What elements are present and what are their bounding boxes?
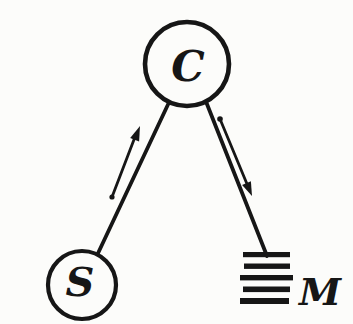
edge-s-to-c xyxy=(92,96,172,266)
arrow-up-shaft xyxy=(112,137,135,197)
hatched-block-icon xyxy=(240,252,293,304)
arrow-up-icon xyxy=(109,126,140,200)
hatch-bar xyxy=(240,275,293,280)
node-c: C xyxy=(145,22,229,106)
edge-c-to-m xyxy=(203,94,267,256)
node-m-label: M xyxy=(297,269,342,314)
node-c-label: C xyxy=(171,42,205,91)
diagram-svg: C S M xyxy=(0,0,353,324)
node-m: M xyxy=(240,252,342,314)
arrow-up-head xyxy=(130,126,140,142)
hatch-bar xyxy=(243,287,290,293)
hatch-bar xyxy=(244,264,290,269)
hatch-bar xyxy=(243,252,290,257)
diagram-canvas: C S M xyxy=(0,0,353,324)
node-s-label: S xyxy=(66,258,95,305)
node-s: S xyxy=(48,251,116,319)
hatch-bar xyxy=(240,298,289,304)
arrow-down-icon xyxy=(217,116,252,196)
